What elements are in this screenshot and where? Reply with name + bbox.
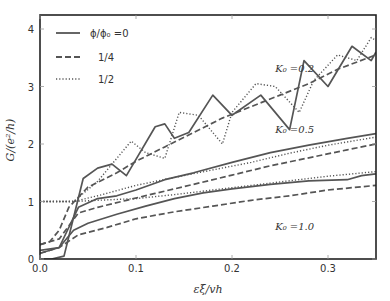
conductance-chart: 0.00.10.20.3 01234 K₀ =0.2K₀ =0.5K₀ =1.0… xyxy=(0,0,390,301)
chart-background xyxy=(0,0,390,301)
legend-label-dashed: 1/4 xyxy=(98,52,114,63)
annotation-k0-0: K₀ =0.2 xyxy=(274,63,314,74)
annotation-k0-2: K₀ =1.0 xyxy=(274,221,315,232)
annotation-k0-1: K₀ =0.5 xyxy=(274,124,314,135)
legend-label-dotted: 1/2 xyxy=(98,74,114,85)
y-tick-label: 3 xyxy=(28,82,34,93)
x-tick-label: 0.0 xyxy=(32,263,48,274)
y-tick-label: 2 xyxy=(28,139,34,150)
y-tick-label: 1 xyxy=(28,197,34,208)
legend-label-solid: ϕ/ϕ₀ =0 xyxy=(90,28,129,39)
y-axis-label: G/(e²/h) xyxy=(4,119,17,162)
x-tick-label: 0.3 xyxy=(320,263,336,274)
y-tick-label: 0 xyxy=(28,254,34,265)
x-tick-label: 0.1 xyxy=(128,263,144,274)
y-tick-label: 4 xyxy=(28,24,34,35)
x-axis-label: εξ/vh xyxy=(194,283,223,296)
x-tick-label: 0.2 xyxy=(224,263,240,274)
